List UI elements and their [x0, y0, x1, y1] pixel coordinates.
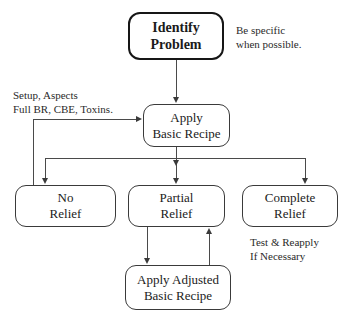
- node-no-relief[interactable]: No Relief: [15, 185, 116, 227]
- node-apply-basic-recipe-line2: Basic Recipe: [152, 126, 220, 142]
- connector-partial-to-adjusted: [147, 227, 148, 259]
- connector-no-relief-feedback-vertical: [33, 119, 34, 185]
- node-identify-problem-line2: Problem: [150, 36, 201, 53]
- annotation-setup-aspects-line2: Full BR, CBE, Toxins.: [13, 102, 113, 116]
- node-partial-relief-line2: Relief: [161, 206, 193, 222]
- arrowhead-into-partial-relief: [173, 178, 179, 184]
- connector-identify-to-apply: [176, 60, 177, 98]
- connector-distribution-bus: [45, 158, 305, 159]
- connector-setup-note-horizontal: [33, 119, 137, 120]
- node-partial-relief[interactable]: Partial Relief: [128, 185, 225, 227]
- arrowhead-into-apply-adjusted: [144, 258, 150, 264]
- annotation-be-specific-line1: Be specific: [236, 23, 301, 37]
- node-apply-basic-recipe-line1: Apply: [170, 110, 203, 126]
- node-apply-adjusted-basic-recipe-line2: Basic Recipe: [144, 288, 212, 304]
- node-apply-basic-recipe[interactable]: Apply Basic Recipe: [143, 104, 230, 147]
- arrowhead-into-complete-relief: [302, 178, 308, 184]
- node-identify-problem[interactable]: Identify Problem: [128, 12, 224, 60]
- node-identify-problem-line1: Identify: [152, 19, 199, 36]
- arrowhead-into-no-relief: [42, 178, 48, 184]
- arrowhead-into-apply-basic-recipe: [173, 97, 179, 103]
- flowchart-canvas: Identify Problem Apply Basic Recipe No R…: [0, 0, 351, 325]
- node-complete-relief[interactable]: Complete Relief: [242, 185, 338, 227]
- node-apply-adjusted-basic-recipe-line1: Apply Adjusted: [137, 272, 219, 288]
- annotation-be-specific-line2: when possible.: [236, 37, 301, 51]
- annotation-test-reapply: Test & Reapply If Necessary: [250, 235, 319, 264]
- connector-bus-to-no-relief: [45, 158, 46, 179]
- node-no-relief-line2: Relief: [50, 206, 82, 222]
- node-partial-relief-line1: Partial: [160, 190, 194, 206]
- annotation-setup-aspects-line1: Setup, Aspects: [13, 88, 113, 102]
- node-apply-adjusted-basic-recipe[interactable]: Apply Adjusted Basic Recipe: [125, 265, 231, 310]
- node-no-relief-line1: No: [58, 190, 74, 206]
- arrowhead-into-apply-basic-recipe-left: [136, 116, 142, 122]
- node-complete-relief-line1: Complete: [265, 190, 316, 206]
- arrowhead-into-partial-relief-bottom: [206, 228, 212, 234]
- connector-bus-to-complete-relief: [305, 158, 306, 179]
- arrowhead-bus-midpoint: [173, 160, 179, 166]
- annotation-test-reapply-line1: Test & Reapply: [250, 235, 319, 249]
- connector-adjusted-to-partial: [209, 234, 210, 265]
- annotation-setup-aspects: Setup, Aspects Full BR, CBE, Toxins.: [13, 88, 113, 117]
- annotation-be-specific: Be specific when possible.: [236, 23, 301, 52]
- annotation-test-reapply-line2: If Necessary: [250, 249, 319, 263]
- node-complete-relief-line2: Relief: [274, 206, 306, 222]
